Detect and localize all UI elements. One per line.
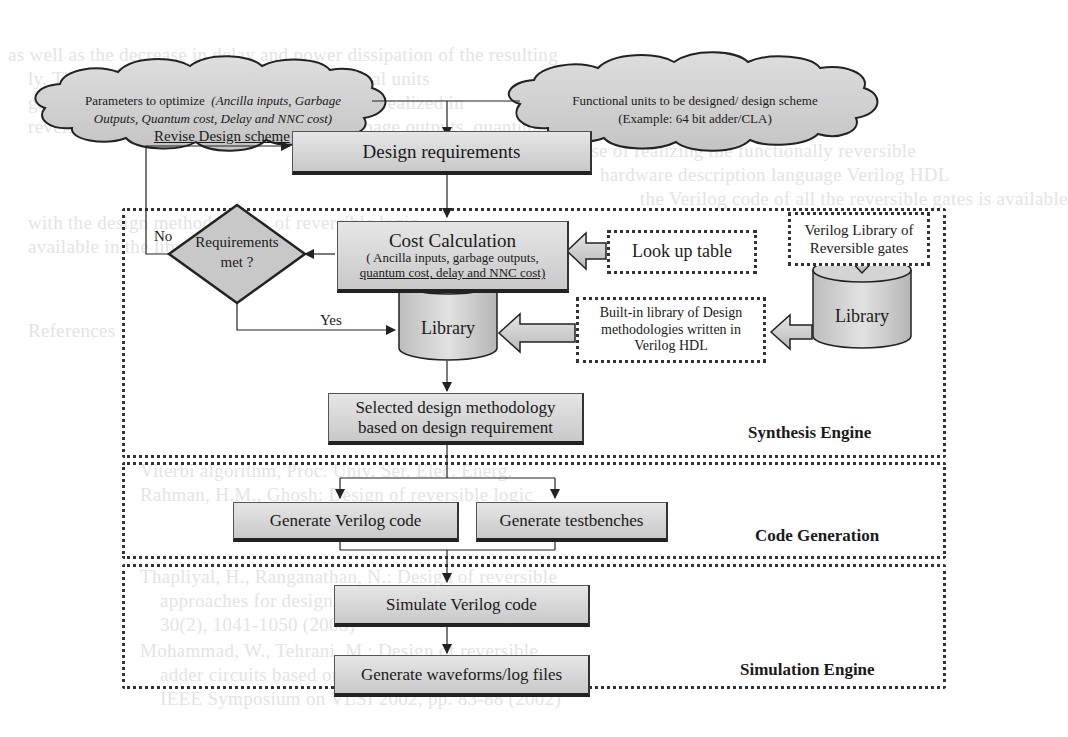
parameters-cloud: Parameters to optimize (Ancilla inputs, … <box>68 92 358 127</box>
generate-testbenches-label: Generate testbenches <box>500 511 644 531</box>
generate-testbenches-node: Generate testbenches <box>476 502 668 542</box>
parameters-prefix: Parameters to optimize <box>85 93 205 108</box>
fat-arrow-lookup <box>567 233 606 269</box>
requirements-met-line1: Requirements <box>186 232 288 252</box>
look-up-table-node: Look up table <box>607 230 757 274</box>
verilog-gate-library-line1: Verilog Library of <box>804 221 913 239</box>
generate-waveforms-label: Generate waveforms/log files <box>361 665 562 685</box>
code-generation-label: Code Generation <box>755 526 879 546</box>
functional-units-line2: (Example: 64 bit adder/CLA) <box>540 110 850 128</box>
selected-methodology-node: Selected design methodology based on des… <box>328 393 584 445</box>
builtin-library-node: Built-in library of Design methodologies… <box>576 297 766 363</box>
verilog-gate-library-node: Verilog Library of Reversible gates <box>788 212 930 266</box>
requirements-met-decision: Requirements met ? <box>186 232 288 273</box>
simulate-verilog-label: Simulate Verilog code <box>386 595 537 615</box>
parameters-list-line1: (Ancilla inputs, Garbage <box>211 93 341 108</box>
design-requirements-label: Design requirements <box>363 141 521 163</box>
builtin-library-line1: Built-in library of Design <box>600 305 743 322</box>
synthesis-engine-label: Synthesis Engine <box>748 423 871 443</box>
generate-verilog-label: Generate Verilog code <box>270 511 422 531</box>
library-main-label: Library <box>399 318 497 339</box>
generate-verilog-node: Generate Verilog code <box>233 502 459 542</box>
cost-calculation-detail-2: quantum cost, delay and NNC cost) <box>360 266 546 281</box>
functional-units-cloud: Functional units to be designed/ design … <box>540 92 850 127</box>
selected-methodology-line1: Selected design methodology <box>355 398 555 418</box>
parameters-list-line2: Outputs, Quantum cost, Delay and NNC cos… <box>94 111 332 126</box>
builtin-library-line2: methodologies written in <box>601 322 741 339</box>
no-label: No <box>154 228 172 245</box>
cost-calculation-detail-1: ( Ancilla inputs, garbage outputs, <box>366 251 539 266</box>
selected-methodology-line2: based on design requirement <box>358 418 553 438</box>
library-gates-label: Library <box>813 306 911 327</box>
simulation-engine-label: Simulation Engine <box>740 660 875 680</box>
verilog-gate-library-line2: Reversible gates <box>810 239 909 257</box>
cost-calculation-node: Cost Calculation ( Ancilla inputs, garba… <box>337 221 569 293</box>
generate-waveforms-node: Generate waveforms/log files <box>334 655 590 697</box>
builtin-library-line3: Verilog HDL <box>634 338 708 355</box>
functional-units-line1: Functional units to be designed/ design … <box>540 92 850 110</box>
revise-design-scheme-label: Revise Design scheme <box>154 128 290 145</box>
cost-calculation-title: Cost Calculation <box>389 230 516 252</box>
simulate-verilog-node: Simulate Verilog code <box>334 585 590 627</box>
design-requirements-node: Design requirements <box>292 131 592 175</box>
yes-label: Yes <box>320 312 342 329</box>
look-up-table-label: Look up table <box>632 241 732 263</box>
requirements-met-line2: met ? <box>186 252 288 272</box>
